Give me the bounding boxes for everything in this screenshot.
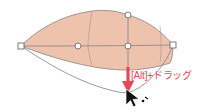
cursor-alt-tick — [145, 97, 148, 99]
anchor-center-left[interactable] — [75, 43, 81, 49]
drag-direction-arrow — [122, 67, 134, 93]
anchor-left[interactable] — [18, 43, 24, 49]
cursor-alt-dot — [142, 100, 145, 103]
anchor-center[interactable] — [125, 43, 131, 49]
anchor-top-center[interactable] — [125, 12, 131, 18]
pointer-cursor — [126, 89, 148, 107]
anchor-right[interactable] — [170, 42, 176, 48]
cursor-arrow-glyph — [126, 89, 139, 107]
vector-artwork[interactable] — [0, 0, 207, 112]
vector-editor-canvas[interactable]: [Alt]+ドラッグ — [0, 0, 207, 112]
leaf-fill-shape[interactable] — [21, 10, 173, 70]
